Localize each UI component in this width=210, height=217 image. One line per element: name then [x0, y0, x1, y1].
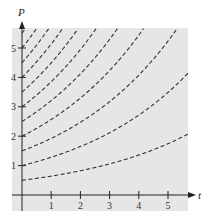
plot-background — [12, 28, 188, 211]
y-tick-label: 3 — [11, 101, 16, 112]
x-tick-label: 1 — [49, 200, 54, 211]
x-axis-label: t — [198, 189, 202, 201]
x-tick-label: 2 — [78, 200, 83, 211]
y-tick-label: 2 — [11, 131, 16, 142]
x-tick-label: 4 — [136, 200, 141, 211]
y-axis-arrow-icon — [19, 21, 25, 29]
y-tick-label: 5 — [11, 43, 16, 54]
slope-field-chart: 1234512345 P t — [0, 0, 210, 217]
y-axis-label: P — [17, 6, 25, 18]
x-axis-arrow-icon — [188, 192, 196, 198]
y-tick-label: 4 — [11, 72, 16, 83]
y-tick-label: 1 — [11, 160, 16, 171]
x-tick-label: 5 — [166, 200, 171, 211]
x-tick-label: 3 — [107, 200, 112, 211]
